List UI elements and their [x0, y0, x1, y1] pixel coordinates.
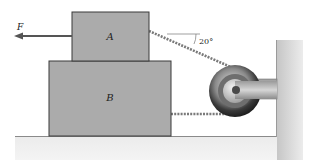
axle-pin-icon [232, 86, 240, 94]
diagram-canvas: B A F 20° [0, 0, 312, 162]
angle-arc [194, 34, 196, 44]
force-label: F [16, 22, 24, 32]
arrowhead-left-icon [14, 33, 23, 40]
wall [277, 40, 303, 160]
angle-label: 20° [199, 37, 213, 46]
block-b-label: B [105, 92, 113, 103]
force-arrow: F [14, 22, 72, 40]
axle-bar [235, 81, 277, 99]
angle-indicator: 20° [167, 34, 213, 46]
block-a-label: A [105, 31, 113, 42]
pulley [209, 65, 277, 117]
block-a: A [72, 12, 149, 61]
block-b: B [49, 61, 171, 136]
